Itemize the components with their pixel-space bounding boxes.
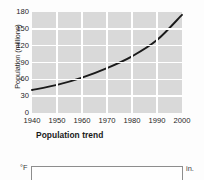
x-tick-label: 1950: [49, 116, 66, 125]
x-tick-label: 2000: [174, 116, 191, 125]
gridline-horizontal: [32, 95, 182, 97]
gridline-horizontal: [32, 45, 182, 47]
climate-plot-frame: [31, 166, 183, 180]
x-tick-label: 1940: [24, 116, 41, 125]
figure-page: Population (millions) 0306090120150180 1…: [0, 0, 204, 180]
y-tick-label: 60: [21, 75, 29, 83]
x-axis-tick-labels: 1940195019601970198019902000: [32, 116, 182, 127]
y-tick-label: 30: [21, 92, 29, 100]
gridline-horizontal: [32, 28, 182, 30]
climate-figure-partial: °F in.: [0, 150, 204, 180]
x-tick-label: 1980: [124, 116, 141, 125]
x-tick-label: 1960: [74, 116, 91, 125]
y-axis-tick-labels: 0306090120150180: [8, 12, 29, 113]
x-tick-label: 1990: [149, 116, 166, 125]
figure-caption: Population trend: [36, 130, 103, 140]
gridline-horizontal: [32, 62, 182, 64]
y-tick-label: 120: [16, 42, 29, 50]
fahrenheit-axis-label: °F: [20, 163, 27, 172]
gridline-horizontal: [32, 79, 182, 81]
plot-area: [32, 12, 182, 113]
x-tick-label: 1970: [99, 116, 116, 125]
y-tick-label: 90: [21, 59, 29, 67]
y-tick-label: 180: [16, 8, 29, 16]
inches-axis-label: in.: [186, 164, 194, 173]
population-trend-figure: Population (millions) 0306090120150180 1…: [0, 0, 204, 148]
y-tick-label: 150: [16, 25, 29, 33]
